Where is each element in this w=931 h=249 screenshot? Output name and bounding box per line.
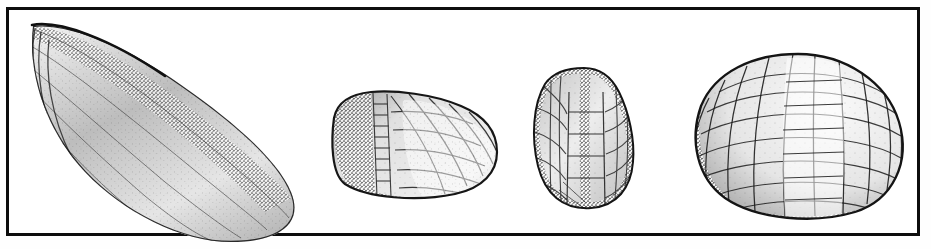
scientific-plate: [0, 0, 931, 249]
plate-border: [6, 7, 920, 236]
figure-barnacle-plated-body-lateral-view: [683, 40, 918, 235]
figure-barnacle-plated-body-oblique-view: [323, 80, 513, 210]
figure-mussel-shell-lateral-view: [19, 16, 319, 246]
figure-barnacle-plated-body-dorsal-view: [528, 60, 648, 220]
plate-artwork: [9, 10, 923, 239]
